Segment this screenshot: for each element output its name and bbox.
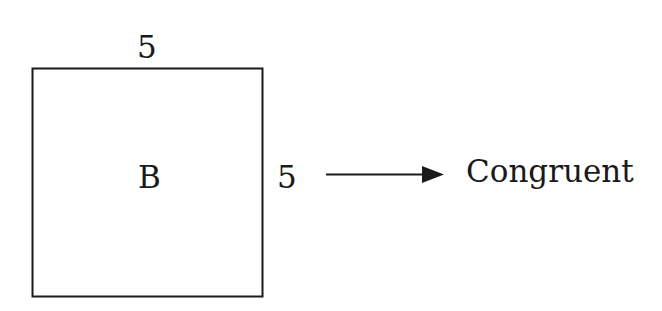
right-side-label: 5 <box>277 162 297 193</box>
conclusion-label: Congruent <box>466 156 634 187</box>
top-side-label: 5 <box>137 32 157 63</box>
arrow-head-icon <box>422 166 444 183</box>
square-label: B <box>138 162 161 193</box>
